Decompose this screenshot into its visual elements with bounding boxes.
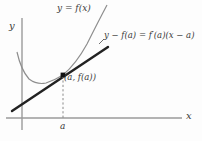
tangency-point-label: (a, f(a)) <box>64 73 96 82</box>
tangent-line-diagram: y = f(x) y − f(a) = f′(a)(x − a) (a, f(a… <box>0 0 202 141</box>
y-axis-label: y <box>9 21 15 31</box>
x-tick-label-a: a <box>60 122 65 131</box>
tangent-equation-label: y − f(a) = f′(a)(x − a) <box>104 31 195 40</box>
diagram-canvas <box>0 0 202 141</box>
curve-equation-label: y = f(x) <box>57 4 91 13</box>
x-axis-label: x <box>186 111 192 121</box>
